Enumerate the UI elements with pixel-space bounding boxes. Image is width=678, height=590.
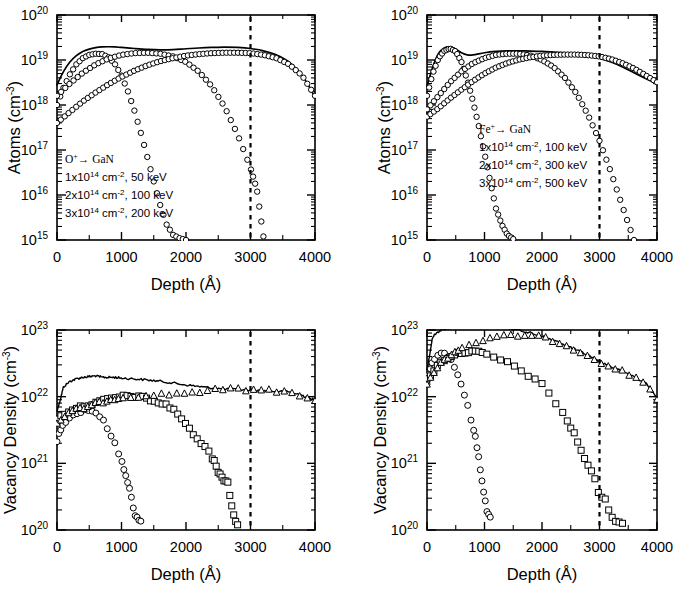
data-point-circle: [455, 372, 461, 378]
y-tick-label: 1023: [391, 320, 419, 338]
x-tick-label: 3000: [583, 249, 615, 265]
data-point-circle: [54, 439, 60, 445]
data-point-circle: [116, 67, 121, 72]
data-point-circle: [138, 130, 143, 135]
data-point-square: [525, 373, 531, 379]
data-point-circle: [112, 62, 117, 67]
data-point-triangle: [473, 339, 480, 345]
y-axis-title: Vacancy Density (cm-3): [1, 346, 19, 514]
data-point-circle: [308, 87, 313, 92]
x-tick-label: 0: [53, 249, 61, 265]
data-point-circle: [212, 88, 217, 93]
data-point-square: [213, 463, 219, 469]
data-point-circle: [312, 93, 317, 98]
x-axis-title: Depth (Å): [151, 275, 222, 293]
data-point-square: [229, 503, 235, 509]
data-point-circle: [167, 227, 172, 232]
y-tick-label: 1019: [391, 50, 419, 68]
data-point-circle: [183, 237, 188, 242]
data-point-circle: [100, 417, 106, 423]
data-point-triangle: [150, 392, 157, 398]
x-tick-label: 4000: [299, 249, 331, 265]
x-axis-title: Depth (Å): [151, 565, 222, 583]
data-point-circle: [220, 101, 225, 106]
panel-iron-vacancy-density: 010002000300040001020102110221023Depth (…: [370, 312, 673, 590]
data-point-circle: [257, 204, 262, 209]
y-tick-label: 1019: [21, 50, 49, 68]
data-point-circle: [474, 445, 480, 451]
x-tick-label: 2000: [170, 249, 202, 265]
data-point-circle: [128, 494, 134, 500]
x-tick-label: 1000: [105, 249, 137, 265]
data-point-circle: [216, 94, 221, 99]
data-point-circle: [431, 69, 436, 74]
data-point-circle: [487, 514, 493, 520]
y-tick-label: 1022: [391, 387, 419, 405]
x-tick-label: 4000: [641, 539, 673, 555]
y-tick-label: 1016: [391, 185, 419, 203]
data-point-circle: [451, 364, 457, 370]
x-axis-title: Depth (Å): [507, 565, 578, 583]
data-point-circle: [135, 119, 140, 124]
data-point-square: [206, 448, 212, 454]
data-point-triangle: [197, 389, 204, 395]
data-point-circle: [481, 489, 487, 495]
data-point-square: [606, 507, 612, 513]
data-point-circle: [621, 207, 626, 212]
data-point-circle: [70, 67, 75, 72]
x-tick-label: 0: [423, 249, 431, 265]
data-point-circle: [583, 108, 588, 113]
x-tick-label: 1000: [468, 539, 500, 555]
legend-line-0: 1x1014 cm-2, 100 keV: [479, 140, 587, 153]
data-point-circle: [250, 174, 255, 179]
data-point-circle: [128, 98, 133, 103]
data-point-square: [560, 409, 566, 415]
panel-oxygen-implant-atoms: 0100020003000400010151016101710181019102…: [0, 0, 331, 308]
data-point-circle: [108, 433, 114, 439]
data-point-square: [564, 418, 570, 424]
data-point-circle: [429, 76, 434, 81]
y-axis-title: Atoms (cm-3): [375, 81, 393, 174]
y-tick-label: 1020: [21, 520, 49, 538]
data-point-circle: [254, 189, 259, 194]
y-tick-label: 1017: [21, 140, 49, 158]
data-point-circle: [476, 454, 482, 460]
data-point-triangle: [235, 385, 242, 391]
legend-species-line: O+→ GaN: [65, 152, 115, 165]
x-tick-label: 1000: [105, 539, 137, 555]
legend: O+→ GaN1x1014 cm-2, 50 keV2x1014 cm-2, 1…: [65, 152, 173, 219]
data-point-circle: [199, 72, 204, 77]
data-point-circle: [482, 498, 488, 504]
data-point-circle: [495, 212, 500, 217]
plot-frame: [427, 15, 657, 240]
legend-species-line: Fe+→ GaN: [479, 122, 532, 135]
data-point-circle: [130, 505, 136, 511]
data-point-circle: [576, 95, 581, 100]
data-point-circle: [252, 181, 257, 186]
data-point-circle: [195, 68, 200, 73]
data-point-square: [186, 425, 192, 431]
data-point-circle: [470, 96, 475, 101]
data-point-square: [532, 376, 538, 382]
data-point-square: [539, 381, 545, 387]
data-point-square: [211, 458, 217, 464]
data-point-square: [484, 351, 490, 357]
y-axis-title: Vacancy Density (cm-3): [371, 346, 389, 514]
y-tick-label: 1020: [21, 5, 49, 23]
data-point-circle: [145, 154, 150, 159]
data-point-circle: [228, 117, 233, 122]
data-point-triangle: [528, 332, 535, 338]
data-point-circle: [498, 218, 503, 223]
y-axis-title: Atoms (cm-3): [5, 81, 23, 174]
data-point-circle: [493, 206, 498, 211]
data-point-square: [505, 359, 511, 365]
data-point-circle: [465, 402, 471, 408]
data-point-square: [602, 496, 608, 502]
data-point-square: [620, 520, 626, 526]
data-point-triangle: [158, 390, 165, 396]
legend-line-2: 3x1014 cm-2, 500 keV: [479, 176, 587, 189]
y-tick-label: 1020: [391, 520, 419, 538]
data-point-circle: [614, 187, 619, 192]
x-tick-label: 3000: [234, 249, 266, 265]
data-point-circle: [586, 115, 591, 120]
